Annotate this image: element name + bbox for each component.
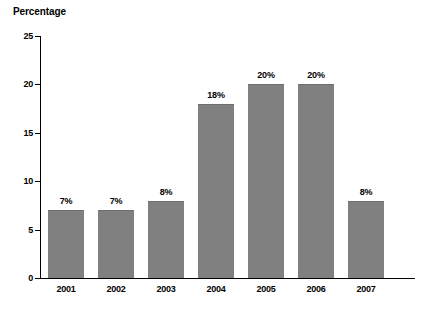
y-axis-tick-label: 25: [9, 32, 33, 41]
bar-value-label: 8%: [342, 188, 390, 197]
x-axis-tick-label: 2004: [192, 284, 240, 294]
y-axis-tick-label: 0: [9, 274, 33, 283]
bar-group: 20%: [248, 36, 284, 278]
bar-value-label: 20%: [292, 71, 340, 80]
bar[interactable]: [248, 84, 284, 278]
bar-value-label: 20%: [242, 71, 290, 80]
y-axis-tick: [35, 230, 40, 231]
x-axis-tick-label: 2005: [242, 284, 290, 294]
bar[interactable]: [48, 210, 84, 278]
y-axis-tick-label-wrap: 0: [0, 274, 33, 283]
y-axis-tick-label-wrap: 10: [0, 177, 33, 186]
bar-value-label: 18%: [192, 91, 240, 100]
y-axis-tick-label: 10: [9, 177, 33, 186]
bar-group: 20%: [298, 36, 334, 278]
x-axis-tick-label: 2001: [42, 284, 90, 294]
y-axis-tick-label: 15: [9, 129, 33, 138]
y-axis-tick-label: 20: [9, 80, 33, 89]
x-axis-line: [40, 278, 415, 279]
x-axis-tick-label: 2002: [92, 284, 140, 294]
bar[interactable]: [298, 84, 334, 278]
y-axis-tick: [35, 133, 40, 134]
y-axis-tick-label: 5: [9, 226, 33, 235]
y-axis-tick-label-wrap: 25: [0, 32, 33, 41]
bar[interactable]: [98, 210, 134, 278]
bar-chart: Percentage 2520151050 7%7%8%18%20%20%8% …: [0, 0, 425, 310]
bar-group: 7%: [98, 36, 134, 278]
y-axis-tick: [35, 278, 40, 279]
y-axis-tick: [35, 84, 40, 85]
x-axis-tick-label: 2003: [142, 284, 190, 294]
bars-layer: 7%7%8%18%20%20%8%: [41, 36, 415, 278]
x-axis-labels: 2001200220032004200520062007: [41, 284, 415, 296]
x-axis-tick-label: 2006: [292, 284, 340, 294]
bar[interactable]: [198, 104, 234, 278]
y-axis-tick-label-wrap: 15: [0, 129, 33, 138]
chart-title: Percentage: [13, 6, 66, 18]
bar-value-label: 7%: [92, 197, 140, 206]
bar[interactable]: [148, 201, 184, 278]
bar-group: 18%: [198, 36, 234, 278]
bar-value-label: 8%: [142, 188, 190, 197]
y-axis-tick-label-wrap: 20: [0, 80, 33, 89]
y-axis-tick-label-wrap: 5: [0, 226, 33, 235]
bar-group: 8%: [348, 36, 384, 278]
bar-group: 7%: [48, 36, 84, 278]
y-axis-tick: [35, 181, 40, 182]
bar-value-label: 7%: [42, 197, 90, 206]
y-axis-tick: [35, 36, 40, 37]
bar[interactable]: [348, 201, 384, 278]
bar-group: 8%: [148, 36, 184, 278]
x-axis-tick-label: 2007: [342, 284, 390, 294]
